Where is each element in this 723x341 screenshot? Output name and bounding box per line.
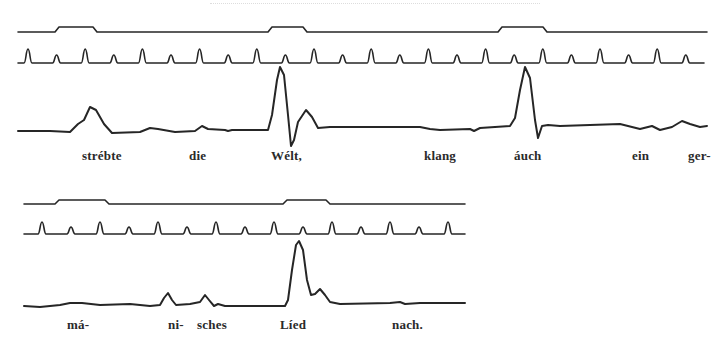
syllable-label: strébte	[82, 149, 122, 162]
syllable-label: ni-	[168, 318, 184, 331]
syllable-label: ein	[632, 149, 649, 162]
syllable-label: Líed	[280, 318, 306, 331]
trace-line	[18, 49, 704, 63]
syllable-label: die	[189, 149, 206, 162]
trace-line	[24, 222, 465, 234]
block1-pitch-trace	[18, 67, 707, 146]
syllable-label: má-	[67, 318, 89, 331]
block1-time-tick-trace	[18, 49, 704, 63]
document-page: strébte die Wélt, klang áuch ein ger- má…	[0, 0, 723, 341]
kymograph-figure	[0, 0, 723, 341]
syllable-label: klang	[424, 149, 456, 162]
trace-line	[24, 241, 465, 307]
syllable-label: sches	[197, 318, 227, 331]
syllable-label: Wélt,	[271, 149, 302, 162]
syllable-label: áuch	[514, 149, 542, 162]
trace-line	[18, 27, 707, 32]
block2-pitch-trace	[24, 241, 465, 307]
syllable-label: ger-	[688, 149, 711, 162]
block1-syllable-marker-trace	[18, 27, 707, 32]
syllable-label: nach.	[392, 318, 423, 331]
trace-line	[24, 200, 465, 204]
trace-line	[18, 67, 707, 146]
block2-time-tick-trace	[24, 222, 465, 234]
block2-syllable-marker-trace	[24, 200, 465, 204]
